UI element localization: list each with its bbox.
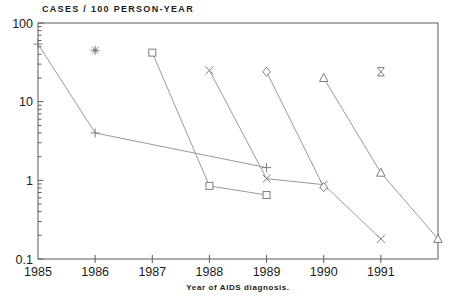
- square-marker: [149, 49, 156, 56]
- y-tick-label: 100: [12, 17, 33, 31]
- diamond-marker: [263, 67, 271, 76]
- series-1987-cohort: [152, 53, 266, 195]
- series-1988-cohort: [209, 70, 380, 239]
- series-1988-cohort-markers: [205, 66, 384, 243]
- series-line: [152, 53, 266, 195]
- series-1986-cohort-markers: [91, 46, 100, 55]
- plot-frame: [38, 23, 438, 259]
- series-1991-cohort-markers: [377, 68, 384, 76]
- series-line: [324, 78, 438, 239]
- triangle-marker: [377, 168, 385, 176]
- x-tick-label: 1985: [24, 265, 52, 279]
- y-tick-label: 10: [19, 95, 33, 109]
- series-1985-cohort: [38, 44, 267, 168]
- x-tick-label: 1990: [310, 265, 338, 279]
- series-1990-cohort: [324, 78, 438, 239]
- series-line: [38, 44, 267, 168]
- series-line: [209, 70, 380, 239]
- chart-figure: 1001010.11985198619871988198919901991 CA…: [0, 0, 454, 303]
- series-1987-cohort-markers: [149, 49, 270, 198]
- square-marker: [263, 192, 270, 199]
- x-tick-label: 1991: [367, 265, 395, 279]
- series-1985-cohort-markers: [34, 40, 272, 173]
- plot-area: 1001010.11985198619871988198919901991: [0, 0, 454, 303]
- x-tick-label: 1988: [196, 265, 224, 279]
- series-1990-cohort-markers: [320, 73, 443, 242]
- y-tick-label: 1: [26, 174, 33, 188]
- triangle-marker: [320, 73, 328, 81]
- x-axis-title: Year of AIDS diagnosis.: [38, 283, 438, 292]
- asterisk-marker: [94, 49, 97, 52]
- x-tick-label: 1987: [138, 265, 166, 279]
- square-marker: [206, 182, 213, 189]
- x-tick-label: 1989: [253, 265, 281, 279]
- series-1989-cohort: [267, 72, 324, 187]
- chart-title: CASES / 100 PERSON-YEAR: [42, 4, 194, 14]
- series-line: [267, 72, 324, 187]
- x-tick-label: 1986: [81, 265, 109, 279]
